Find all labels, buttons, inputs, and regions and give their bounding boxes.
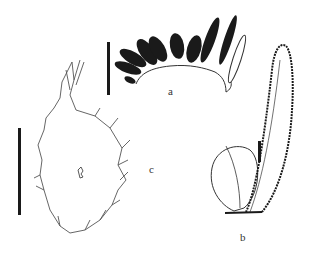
- botanical-illustration: [0, 0, 316, 261]
- panel-label-c: c: [149, 164, 154, 175]
- panel-b-leaves: [211, 45, 293, 213]
- panel-c-thallus: [34, 60, 130, 233]
- panel-label-b: b: [240, 232, 246, 243]
- panel-a-frond: [113, 14, 248, 92]
- scale-bar-a: [107, 42, 110, 95]
- scale-bar-c: [18, 128, 21, 215]
- panel-label-a: a: [168, 86, 173, 97]
